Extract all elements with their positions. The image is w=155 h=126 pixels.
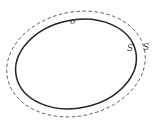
diagram-canvas: σ S S [0,0,155,126]
inner-surface-label: S [127,43,133,53]
outer-surface-label: S [143,42,149,52]
sigma-label: σ [70,16,77,26]
